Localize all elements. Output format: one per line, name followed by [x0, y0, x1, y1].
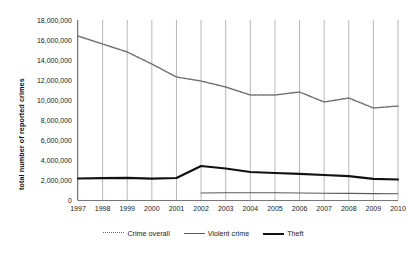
plot-area: [0, 0, 407, 253]
legend-item-violent-crime[interactable]: Violent crime: [184, 229, 249, 238]
dotted-line-icon: [103, 232, 124, 235]
legend-item-label: Crime overall: [127, 229, 169, 238]
thick-line-icon: [263, 233, 284, 235]
chart-legend: Crime overallViolent crimeTheft: [0, 229, 407, 238]
thin-line-icon: [184, 233, 205, 234]
legend-item-label: Violent crime: [208, 229, 249, 238]
gridlines-group: [78, 20, 398, 200]
series-line-theft: [78, 166, 398, 180]
legend-item-theft[interactable]: Theft: [263, 229, 303, 238]
data-series-group: [78, 36, 398, 194]
legend-item-label: Theft: [287, 229, 303, 238]
legend-item-crime-overall[interactable]: Crime overall: [103, 229, 169, 238]
crime-statistics-line-chart: total number of reported crimes 18,000,0…: [0, 0, 407, 253]
series-line-crime-overall: [78, 36, 398, 108]
